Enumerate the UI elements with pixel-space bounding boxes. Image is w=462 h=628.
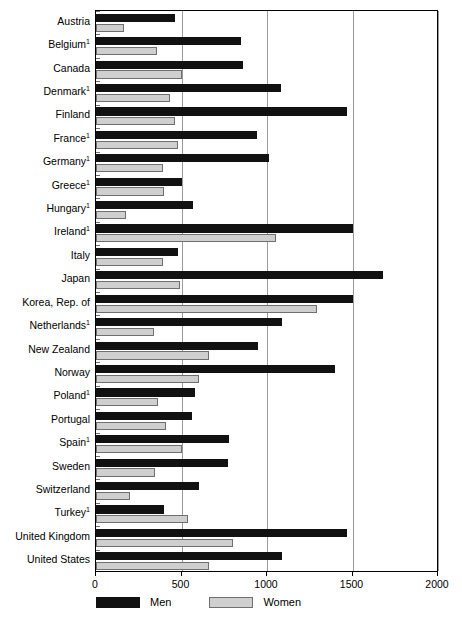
category-label-germany: Germany1 (43, 156, 90, 167)
bar-row (96, 175, 437, 198)
bar-men (96, 248, 178, 256)
women-swatch (209, 597, 253, 608)
category-label-portugal: Portugal (51, 414, 90, 425)
x-tick-label-500: 500 (172, 578, 190, 590)
bar-women (96, 234, 276, 242)
bar-women (96, 422, 166, 430)
category-tick (96, 105, 100, 106)
category-label-new-zealand: New Zealand (28, 344, 90, 355)
category-tick (96, 269, 100, 270)
bar-men (96, 295, 353, 303)
bar-women (96, 24, 124, 32)
bar-rows (96, 11, 437, 571)
bar-women (96, 47, 157, 55)
bar-men (96, 224, 353, 232)
category-label-canada: Canada (53, 63, 90, 74)
bar-women (96, 492, 130, 500)
category-tick (96, 58, 100, 59)
legend-item-men[interactable]: Men (96, 596, 171, 608)
bar-men (96, 61, 243, 69)
bar-women (96, 164, 163, 172)
x-tick-0 (95, 572, 96, 576)
bar-women (96, 328, 154, 336)
category-label-hungary: Hungary1 (46, 203, 90, 214)
gridline-2000 (438, 11, 439, 571)
x-tick-label-1000: 1000 (254, 578, 277, 590)
bar-men (96, 178, 182, 186)
bar-men (96, 131, 257, 139)
category-tick (96, 245, 100, 246)
bar-row (96, 198, 437, 221)
bar-row (96, 105, 437, 128)
x-tick-500 (181, 572, 182, 576)
bar-women (96, 398, 158, 406)
bar-men (96, 435, 229, 443)
category-label-united-kingdom: United Kingdom (15, 531, 90, 542)
category-tick (96, 198, 100, 199)
x-tick-2000 (437, 572, 438, 576)
bar-row (96, 11, 437, 34)
legend-label: Men (150, 596, 171, 608)
bar-women (96, 70, 182, 78)
bar-row (96, 34, 437, 57)
footnote-marker: 1 (86, 178, 90, 185)
x-tick-label-2000: 2000 (425, 578, 448, 590)
bar-men (96, 37, 241, 45)
bar-row (96, 409, 437, 432)
category-label-denmark: Denmark1 (43, 86, 90, 97)
footnote-marker: 1 (86, 436, 90, 443)
category-label-sweden: Sweden (52, 461, 90, 472)
bar-row (96, 456, 437, 479)
bar-women (96, 539, 233, 547)
bar-row (96, 433, 437, 456)
category-label-korea-rep-of: Korea, Rep. of (22, 297, 90, 308)
category-tick (96, 526, 100, 527)
category-label-austria: Austria (57, 16, 90, 27)
bar-women (96, 141, 178, 149)
bar-men (96, 388, 195, 396)
bar-row (96, 315, 437, 338)
bar-women (96, 375, 199, 383)
bar-row (96, 292, 437, 315)
category-label-france: France1 (53, 133, 90, 144)
bar-row (96, 386, 437, 409)
bar-women (96, 468, 155, 476)
x-tick-1000 (266, 572, 267, 576)
bar-men (96, 342, 258, 350)
bar-women (96, 117, 175, 125)
category-tick (96, 409, 100, 410)
category-label-turkey: Turkey1 (54, 507, 90, 518)
category-tick (96, 479, 100, 480)
chart-legend: MenWomen (96, 596, 301, 608)
bar-men (96, 84, 281, 92)
category-tick (96, 433, 100, 434)
category-tick (96, 11, 100, 12)
category-label-netherlands: Netherlands1 (29, 320, 90, 331)
bar-men (96, 318, 282, 326)
bar-men (96, 154, 269, 162)
bar-row (96, 479, 437, 502)
bar-row (96, 362, 437, 385)
x-tick-label-0: 0 (92, 578, 98, 590)
category-tick (96, 222, 100, 223)
bar-men (96, 552, 282, 560)
bar-row (96, 550, 437, 573)
category-tick (96, 175, 100, 176)
category-tick (96, 550, 100, 551)
men-swatch (96, 597, 140, 608)
bar-row (96, 245, 437, 268)
category-label-greece: Greece1 (52, 180, 90, 191)
footnote-marker: 1 (86, 131, 90, 138)
bar-women (96, 445, 182, 453)
bar-row (96, 503, 437, 526)
footnote-marker: 1 (86, 202, 90, 209)
footnote-marker: 1 (86, 225, 90, 232)
legend-label: Women (263, 596, 301, 608)
bar-men (96, 505, 164, 513)
bar-men (96, 412, 192, 420)
category-label-belgium: Belgium1 (48, 39, 90, 50)
bar-row (96, 269, 437, 292)
bar-men (96, 459, 228, 467)
legend-item-women[interactable]: Women (209, 596, 301, 608)
bar-row (96, 339, 437, 362)
